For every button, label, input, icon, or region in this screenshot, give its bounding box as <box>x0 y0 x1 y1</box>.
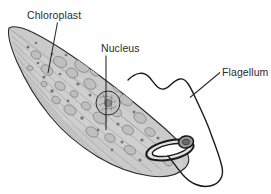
label-chloroplast: Chloroplast <box>27 9 81 21</box>
flagellum-leader-line <box>190 73 220 98</box>
euglena-diagram: Chloroplast Nucleus Flagellum <box>0 0 271 194</box>
label-nucleus: Nucleus <box>101 42 140 54</box>
nucleus <box>96 91 120 115</box>
diagram-canvas: Chloroplast Nucleus Flagellum <box>0 0 271 194</box>
label-flagellum: Flagellum <box>222 66 269 78</box>
